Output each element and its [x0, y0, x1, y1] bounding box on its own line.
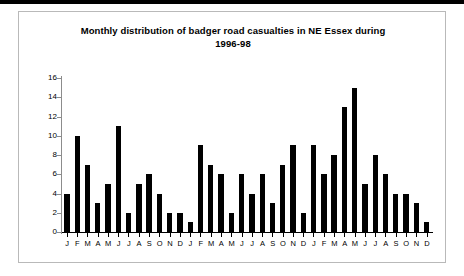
- bar: [352, 88, 357, 232]
- bar: [362, 184, 367, 232]
- bar-slot: [237, 78, 247, 232]
- x-axis-tick-mark: [313, 233, 314, 237]
- x-axis-tick-label: A: [381, 239, 391, 249]
- chart-panel: Monthly distribution of badger road casu…: [18, 11, 446, 263]
- x-axis-tick-label: A: [93, 239, 103, 249]
- bar-slot: [278, 78, 288, 232]
- bar-slot: [268, 78, 278, 232]
- bar-slot: [319, 78, 329, 232]
- x-axis-tick-label: J: [62, 239, 72, 249]
- x-axis-tick-label: J: [370, 239, 380, 249]
- x-axis-tick-mark: [293, 233, 294, 237]
- x-axis-tick-mark: [149, 233, 150, 237]
- x-axis-tick-mark: [252, 233, 253, 237]
- bar-slot: [226, 78, 236, 232]
- bar: [126, 213, 131, 232]
- bar-slot: [411, 78, 421, 232]
- bar-slot: [381, 78, 391, 232]
- bar-slot: [391, 78, 401, 232]
- x-axis-tick-mark: [427, 233, 428, 237]
- x-axis-tick-mark: [416, 233, 417, 237]
- bar-slot: [370, 78, 380, 232]
- bar: [167, 213, 172, 232]
- x-axis-ticks: [62, 233, 432, 237]
- bar: [198, 145, 203, 232]
- bar-slot: [93, 78, 103, 232]
- bar: [414, 203, 419, 232]
- bar-slot: [103, 78, 113, 232]
- x-axis-tick-mark: [159, 233, 160, 237]
- x-axis-tick-mark: [211, 233, 212, 237]
- x-axis-labels: JFMAMJJASONDJFMAMJJASONDJFMAMJJASOND: [62, 239, 432, 251]
- x-axis-tick-mark: [67, 233, 68, 237]
- x-axis-tick-mark: [77, 233, 78, 237]
- bar-slot: [185, 78, 195, 232]
- x-axis-tick-mark: [303, 233, 304, 237]
- x-axis-tick-mark: [272, 233, 273, 237]
- x-axis-tick-label: J: [247, 239, 257, 249]
- bar-slot: [360, 78, 370, 232]
- y-axis-tick-label: 8: [33, 150, 57, 159]
- bar-slot: [288, 78, 298, 232]
- x-axis-tick-mark: [231, 233, 232, 237]
- x-axis-tick-label: S: [268, 239, 278, 249]
- x-axis-tick-label: S: [391, 239, 401, 249]
- bar-slot: [72, 78, 82, 232]
- chart-title: Monthly distribution of badger road casu…: [53, 24, 413, 50]
- x-axis-tick-mark: [283, 233, 284, 237]
- x-axis-tick-mark: [396, 233, 397, 237]
- x-axis-tick-label: J: [124, 239, 134, 249]
- bar: [249, 194, 254, 233]
- bar: [116, 126, 121, 232]
- bar-slot: [196, 78, 206, 232]
- x-axis-tick-mark: [375, 233, 376, 237]
- page-top-rule: [0, 0, 464, 4]
- x-axis-tick-mark: [365, 233, 366, 237]
- bar: [85, 165, 90, 232]
- x-axis-tick-label: M: [103, 239, 113, 249]
- bar-slot: [155, 78, 165, 232]
- bar-slot: [165, 78, 175, 232]
- y-axis-tick-label: 6: [33, 169, 57, 178]
- x-axis-tick-label: A: [257, 239, 267, 249]
- bar-slot: [175, 78, 185, 232]
- bar: [208, 165, 213, 232]
- y-axis-tick-label: 10: [33, 131, 57, 140]
- x-axis-tick-label: A: [216, 239, 226, 249]
- bar-slot: [401, 78, 411, 232]
- bar-slot: [247, 78, 257, 232]
- y-axis-tick-label: 0: [33, 227, 57, 236]
- bar-slot: [216, 78, 226, 232]
- x-axis-tick-label: N: [288, 239, 298, 249]
- bar: [321, 174, 326, 232]
- bar: [229, 213, 234, 232]
- bar: [177, 213, 182, 232]
- x-axis-tick-mark: [180, 233, 181, 237]
- x-axis-tick-label: D: [422, 239, 432, 249]
- x-axis-tick-mark: [406, 233, 407, 237]
- x-axis-tick-mark: [344, 233, 345, 237]
- x-axis-tick-label: S: [144, 239, 154, 249]
- x-axis-tick-label: M: [206, 239, 216, 249]
- bar: [331, 155, 336, 232]
- bar: [424, 222, 429, 232]
- chart-title-line-2: 1996-98: [53, 37, 413, 50]
- x-axis-tick-mark: [324, 233, 325, 237]
- x-axis-tick-mark: [98, 233, 99, 237]
- bar: [239, 174, 244, 232]
- bar: [136, 184, 141, 232]
- bar: [270, 203, 275, 232]
- x-axis-tick-label: M: [350, 239, 360, 249]
- x-axis-tick-mark: [355, 233, 356, 237]
- y-axis-tick-label: 4: [33, 189, 57, 198]
- bar: [95, 203, 100, 232]
- x-axis-tick-mark: [139, 233, 140, 237]
- x-axis-tick-label: J: [360, 239, 370, 249]
- y-axis-tick-label: 14: [33, 92, 57, 101]
- bar-slot: [113, 78, 123, 232]
- x-axis-tick-mark: [242, 233, 243, 237]
- bar: [64, 194, 69, 233]
- x-axis-tick-label: A: [340, 239, 350, 249]
- bar: [75, 136, 80, 232]
- x-axis-tick-label: J: [237, 239, 247, 249]
